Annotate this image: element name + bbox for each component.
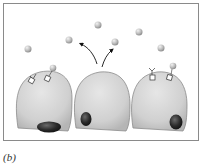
bound-molecule [170, 63, 177, 70]
left-target-cell [16, 71, 72, 132]
molecule [95, 22, 102, 29]
molecule [112, 39, 119, 46]
nucleus [81, 112, 92, 126]
molecule [136, 29, 143, 36]
nucleus [170, 115, 183, 130]
molecule [66, 37, 73, 44]
nucleus [37, 122, 61, 133]
molecule [25, 46, 32, 53]
receptor-square [150, 75, 155, 80]
bound-molecule [50, 65, 57, 72]
cell-signaling-diagram [0, 0, 201, 166]
middle-secreting-cell [74, 72, 130, 131]
right-target-cell [132, 72, 187, 131]
molecule [158, 45, 165, 52]
panel-label: (b) [3, 151, 16, 163]
receptor-square [166, 74, 172, 80]
